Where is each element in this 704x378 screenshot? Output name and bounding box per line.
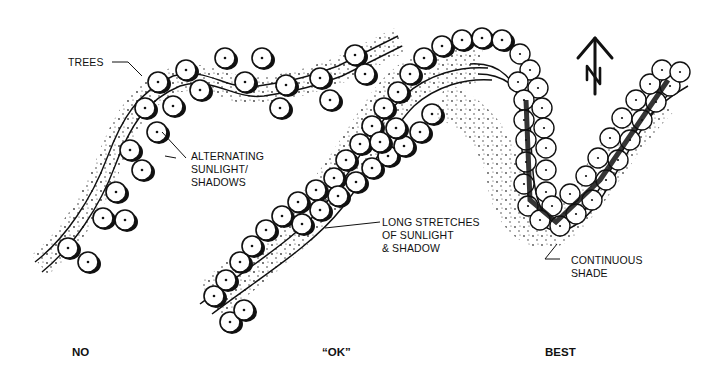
label-long-stretches: LONG STRETCHES OF SUNLIGHT & SHADOW (382, 216, 480, 255)
label-line: SUNLIGHT/ (191, 163, 264, 176)
label-line: SHADOWS (191, 176, 264, 189)
label-trees: TREES (68, 56, 104, 69)
label-line: CONTINUOUS (571, 254, 643, 267)
label-line: LONG STRETCHES (382, 216, 480, 229)
caption-ok: “OK” (322, 346, 351, 358)
label-line: OF SUNLIGHT (382, 229, 480, 242)
label-alternating-sunlight-shadows: ALTERNATING SUNLIGHT/ SHADOWS (191, 150, 264, 189)
caption-best: BEST (545, 346, 576, 358)
trail-planting-diagram (0, 0, 704, 378)
label-line: SHADE (571, 267, 643, 280)
north-arrow-icon (578, 38, 612, 94)
label-line: & SHADOW (382, 242, 480, 255)
label-continuous-shade: CONTINUOUS SHADE (571, 254, 643, 280)
label-line: ALTERNATING (191, 150, 264, 163)
caption-no: NO (72, 346, 89, 358)
